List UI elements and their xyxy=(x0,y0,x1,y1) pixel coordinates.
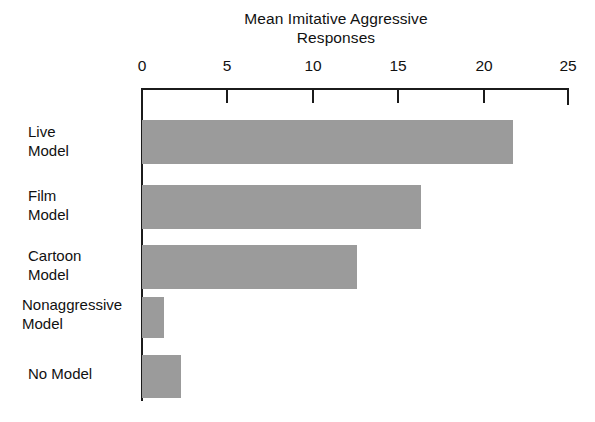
x-axis-tick-0 xyxy=(141,89,143,105)
category-label-line: Cartoon xyxy=(28,246,140,265)
x-axis-tick-10 xyxy=(312,89,314,103)
x-axis-label-10: 10 xyxy=(293,57,333,75)
x-axis-label-20: 20 xyxy=(464,57,504,75)
category-label-line: No Model xyxy=(28,364,140,383)
bar-cartoon-model xyxy=(142,245,357,289)
category-label-live-model: Live Model xyxy=(28,122,140,160)
x-axis-tick-20 xyxy=(483,89,485,103)
bar-chart: Mean Imitative Aggressive Responses 0 5 … xyxy=(0,0,595,422)
x-axis-line xyxy=(141,88,569,90)
x-axis-tick-5 xyxy=(226,89,228,103)
chart-title-line-1: Mean Imitative Aggressive xyxy=(196,9,476,28)
bar-live-model xyxy=(142,120,513,164)
category-label-nonaggressive-model: Nonaggressive Model xyxy=(22,295,146,333)
x-axis-label-5: 5 xyxy=(207,57,247,75)
chart-title-line-2: Responses xyxy=(196,28,476,47)
x-axis-label-15: 15 xyxy=(378,57,418,75)
category-label-line: Film xyxy=(28,186,140,205)
category-label-cartoon-model: Cartoon Model xyxy=(28,246,140,284)
category-label-line: Live xyxy=(28,122,140,141)
category-label-line: Nonaggressive xyxy=(22,295,146,314)
bar-film-model xyxy=(142,185,421,229)
x-axis-label-25: 25 xyxy=(548,57,588,75)
category-label-line: Model xyxy=(28,141,140,160)
x-axis-label-0: 0 xyxy=(122,57,162,75)
bar-no-model xyxy=(142,355,181,398)
category-label-line: Model xyxy=(22,314,146,333)
category-label-line: Model xyxy=(28,265,140,284)
category-label-line: Model xyxy=(28,205,140,224)
x-axis-tick-15 xyxy=(397,89,399,103)
category-label-film-model: Film Model xyxy=(28,186,140,224)
category-label-no-model: No Model xyxy=(28,364,140,383)
chart-title: Mean Imitative Aggressive Responses xyxy=(196,9,476,47)
x-axis-tick-25 xyxy=(567,89,569,105)
